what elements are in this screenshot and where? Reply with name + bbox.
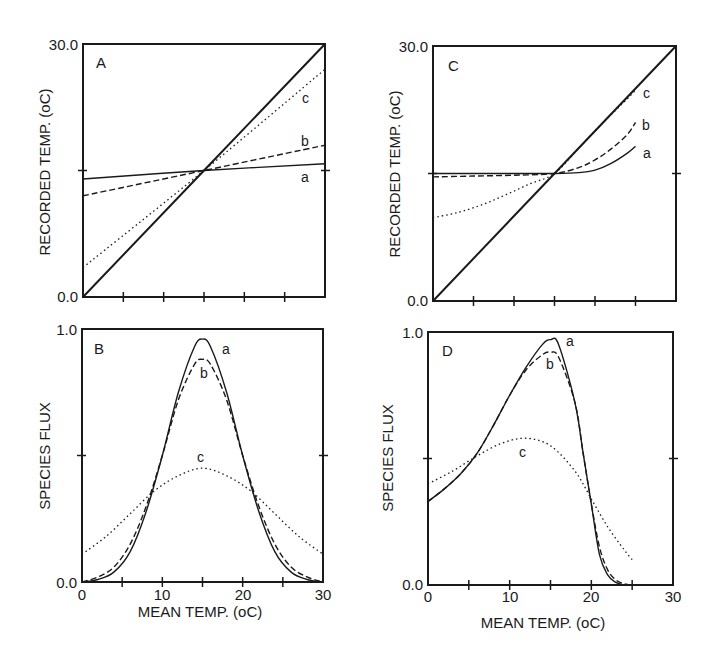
panel-a-ybot: 0.0 [57,288,78,305]
panel-d-curve-a [428,338,624,585]
panel-d-curve-c [428,438,632,559]
panel-c-ytop: 30.0 [399,38,428,55]
panel-d-curve-b [428,352,632,585]
panel-a-curve-c [83,69,325,267]
panel-c-curve-b [433,123,636,177]
panel-c-curve-a [433,146,636,173]
panel-a-curve-c-label: c [302,90,309,106]
figure: 30.0 0.0 30.0 0.0 1.0 0.0 1.0 0.0 0 10 2… [0,0,714,660]
panel-a-curve-a-label: a [301,169,309,185]
panel-c-ybot: 0.0 [407,292,428,309]
panel-b-xtick-30: 30 [315,586,332,603]
panel-d-ylabel-visible: SPECIES FLUX [379,404,396,512]
panel-c-ylabel: RECORDED TEMP. (oC) [386,91,403,258]
panel-b-xtick-0: 0 [78,586,86,603]
panel-a-ylabel: RECORDED TEMP. (oC) [36,89,53,256]
panel-d-label: D [442,342,453,359]
panel-d-curve-c-label: c [519,444,526,460]
panel-d-xlabel: MEAN TEMP. (oC) [481,614,605,631]
panel-b-xtick-20: 20 [235,586,252,603]
panel-c-curve-a-label: a [643,145,651,161]
panel-b-curve-a-label: a [222,341,230,357]
panel-c-label: C [448,57,459,74]
panel-c-curve-c-label: c [643,85,650,101]
panel-b-ybot: 0.0 [56,574,77,591]
panel-b-ytop: 1.0 [56,321,77,338]
axis-ticks [77,171,681,591]
panel-d-ybot: 0.0 [402,576,423,593]
panel-c-curve-b-label: b [642,117,650,133]
panel-d-xtick-30: 30 [665,588,682,605]
panel-b-curve-b-label: b [200,365,208,381]
panel-d-curve-b-label: b [546,356,554,372]
panel-a-ytop: 30.0 [49,36,78,53]
panel-d-ytop: 1.0 [402,324,423,341]
panel-a-label: A [96,54,106,71]
panel-d-xtick-0: 0 [424,588,432,605]
panel-b-xlabel: MEAN TEMP. (oC) [138,603,262,620]
panel-b-xtick-10: 10 [154,586,171,603]
panel-a-curve-b-label: b [301,133,309,149]
panel-b-curve-b [82,359,323,582]
panel-d-xtick-10: 10 [502,588,519,605]
panel-b-curve-c-label: c [197,449,204,465]
panel-b-label: B [94,340,104,357]
panel-d-curve-a-label: a [566,333,574,349]
panel-b-curve-c [82,468,323,554]
panel-d-xtick-20: 20 [583,588,600,605]
panel-b-ylabel: SPECIES FLUX [36,402,53,510]
